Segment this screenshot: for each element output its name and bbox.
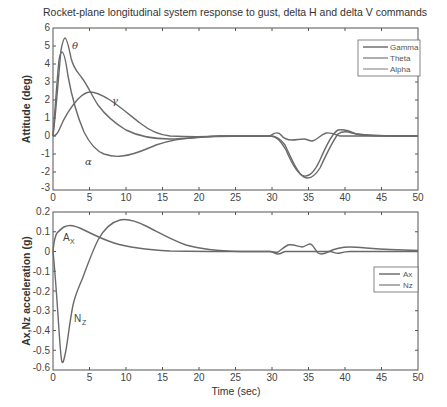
ax-line — [53, 226, 418, 255]
legend-nz: Nz — [403, 281, 413, 290]
y-tick: 2 — [44, 94, 50, 105]
top-y-tick-labels: 6 5 4 3 2 1 0 -1 -2 -3 — [41, 22, 50, 193]
y-tick: -0.1 — [33, 266, 51, 277]
x-tick: 45 — [376, 192, 388, 203]
bottom-plot-frame — [53, 212, 418, 370]
x-tick: 20 — [193, 192, 205, 203]
bottom-y-ticks — [53, 232, 418, 351]
bottom-y-tick-labels: 0.2 0.1 0 -0.1 -0.2 -0.3 -0.4 -0.5 -0.6 — [33, 206, 51, 373]
x-tick: 10 — [120, 372, 132, 383]
bottom-legend: Ax Nz — [374, 267, 418, 292]
y-tick: 1 — [44, 112, 50, 123]
top-plot: 6 5 4 3 2 1 0 -1 -2 -3 0 5 10 15 20 25 3… — [20, 22, 424, 203]
x-tick: 35 — [303, 192, 315, 203]
legend-theta: Theta — [390, 54, 411, 63]
svg-text:Z: Z — [82, 319, 87, 326]
legend-ax: Ax — [403, 270, 412, 279]
x-tick: 30 — [266, 372, 278, 383]
svg-text:A: A — [63, 232, 70, 243]
alpha-annotation: α — [85, 156, 92, 167]
y-tick: -1 — [41, 148, 50, 159]
x-tick: 0 — [50, 372, 56, 383]
x-tick: 50 — [412, 372, 424, 383]
y-tick: -0.3 — [33, 305, 51, 316]
y-tick: -0.4 — [33, 325, 51, 336]
x-tick: 20 — [193, 372, 205, 383]
top-x-tick-labels: 0 5 10 15 20 25 30 35 40 45 50 — [50, 192, 424, 203]
top-legend: Gamma Theta Alpha — [358, 40, 420, 76]
y-tick: 0 — [44, 130, 50, 141]
bottom-y-axis-label: Ax,Nz acceleration (g) — [20, 236, 32, 346]
x-tick: 25 — [230, 372, 242, 383]
y-tick: 0 — [44, 246, 50, 257]
y-tick: 4 — [44, 58, 50, 69]
x-tick: 5 — [87, 192, 93, 203]
nz-annotation: N Z — [74, 313, 87, 326]
y-tick: -0.5 — [33, 345, 51, 356]
ax-annotation: A X — [63, 232, 75, 245]
top-y-axis-label: Attitude (deg) — [20, 75, 32, 143]
y-tick: 3 — [44, 76, 50, 87]
x-tick: 15 — [157, 192, 169, 203]
x-tick: 50 — [412, 192, 424, 203]
svg-text:N: N — [74, 313, 81, 324]
x-tick: 40 — [339, 192, 351, 203]
x-tick: 45 — [376, 372, 388, 383]
x-tick: 5 — [87, 372, 93, 383]
x-tick: 30 — [266, 192, 278, 203]
bottom-plot: 0.2 0.1 0 -0.1 -0.2 -0.3 -0.4 -0.5 -0.6 … — [20, 206, 424, 397]
y-tick: -0.2 — [33, 286, 51, 297]
bottom-x-ticks — [90, 212, 382, 370]
theta-annotation: θ — [72, 40, 78, 51]
x-tick: 0 — [50, 192, 56, 203]
figure-title: Rocket-plane longitudinal system respons… — [43, 6, 427, 18]
y-tick: 0.1 — [36, 226, 50, 237]
y-tick: 6 — [44, 22, 50, 33]
x-tick: 10 — [120, 192, 132, 203]
x-tick: 40 — [339, 372, 351, 383]
y-tick: -3 — [41, 182, 50, 193]
svg-text:X: X — [70, 238, 75, 245]
x-tick: 25 — [230, 192, 242, 203]
bottom-x-tick-labels: 0 5 10 15 20 25 30 35 40 45 50 — [50, 372, 424, 383]
y-tick: 5 — [44, 40, 50, 51]
legend-gamma: Gamma — [390, 43, 419, 52]
x-tick: 15 — [157, 372, 169, 383]
legend-alpha: Alpha — [390, 65, 411, 74]
top-x-ticks — [90, 28, 382, 190]
y-tick: 0.2 — [36, 206, 50, 217]
gamma-annotation: γ — [112, 95, 118, 106]
y-tick: -2 — [41, 166, 50, 177]
y-tick: -0.6 — [33, 362, 51, 373]
x-axis-label: Time (sec) — [211, 385, 260, 397]
figure: Rocket-plane longitudinal system respons… — [0, 0, 447, 407]
x-tick: 35 — [303, 372, 315, 383]
